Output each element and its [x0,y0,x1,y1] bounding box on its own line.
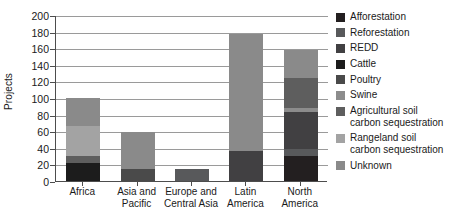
bar-segment[interactable] [66,98,100,126]
legend-swatch-icon [336,44,345,53]
y-tick-label: 200 [19,11,49,22]
bar-segment[interactable] [121,132,155,169]
legend-swatch-icon [336,60,345,69]
legend-swatch-icon [336,91,345,100]
x-tick-mark [300,182,301,186]
bar-segment[interactable] [284,50,318,78]
y-tick-label: 100 [19,94,49,105]
bar-segment[interactable] [284,112,318,149]
legend-item[interactable]: Rangeland soil carbon sequestration [336,132,468,155]
y-tick-label: 60 [19,127,49,138]
legend: AfforestationReforestationREDDCattlePoul… [336,11,468,175]
legend-label: Swine [350,89,377,101]
bar-segment[interactable] [229,34,263,151]
x-tick-mark [191,182,192,186]
legend-item[interactable]: Cattle [336,58,468,70]
bar-stack[interactable] [66,98,100,181]
legend-label: Afforestation [350,11,406,23]
legend-swatch-icon [336,13,345,22]
legend-swatch-icon [336,28,345,37]
y-tick-label: 120 [19,77,49,88]
y-tick-label: 140 [19,61,49,72]
legend-label: Unknown [350,160,392,172]
y-axis-title-text: Projects [3,73,14,110]
bar-segment[interactable] [66,126,100,156]
legend-label: Rangeland soil carbon sequestration [350,132,443,155]
legend-item[interactable]: REDD [336,42,468,54]
legend-label: Agricultural soil carbon sequestration [350,105,443,128]
y-axis-title: Projects [0,0,16,182]
x-tick-mark [82,182,83,186]
legend-item[interactable]: Agricultural soil carbon sequestration [336,105,468,128]
gridline [56,16,328,17]
legend-swatch-icon [336,134,345,143]
legend-swatch-icon [336,107,345,116]
bar-segment[interactable] [284,156,318,181]
legend-item[interactable]: Unknown [336,160,468,172]
chart-figure: Projects 020406080100120140160180200 Afr… [0,0,468,219]
legend-swatch-icon [336,75,345,84]
gridline [56,33,328,34]
legend-item[interactable]: Swine [336,89,468,101]
x-tick-mark [245,182,246,186]
x-tick-label: North America [263,186,337,209]
bar-stack[interactable] [284,50,318,181]
legend-item[interactable]: Reforestation [336,27,468,39]
bar-stack[interactable] [121,132,155,181]
bar-segment[interactable] [66,163,100,181]
legend-item[interactable]: Poultry [336,74,468,86]
legend-swatch-icon [336,161,345,170]
legend-label: Cattle [350,58,376,70]
bar-segment[interactable] [284,78,318,108]
bar-segment[interactable] [175,169,209,181]
y-tick-mark [50,182,55,183]
y-tick-label: 160 [19,44,49,55]
y-tick-label: 80 [19,111,49,122]
legend-label: Poultry [350,74,381,86]
legend-label: Reforestation [350,27,409,39]
legend-item[interactable]: Afforestation [336,11,468,23]
bar-segment[interactable] [66,156,100,163]
bar-stack[interactable] [229,34,263,181]
bar-stack[interactable] [175,169,209,181]
x-tick-mark [137,182,138,186]
legend-label: REDD [350,42,378,54]
bar-segment[interactable] [284,149,318,156]
y-tick-label: 40 [19,144,49,155]
y-tick-label: 20 [19,160,49,171]
y-tick-label: 180 [19,28,49,39]
bar-segment[interactable] [229,151,263,181]
plot-area [55,16,327,182]
bar-segment[interactable] [121,169,155,181]
